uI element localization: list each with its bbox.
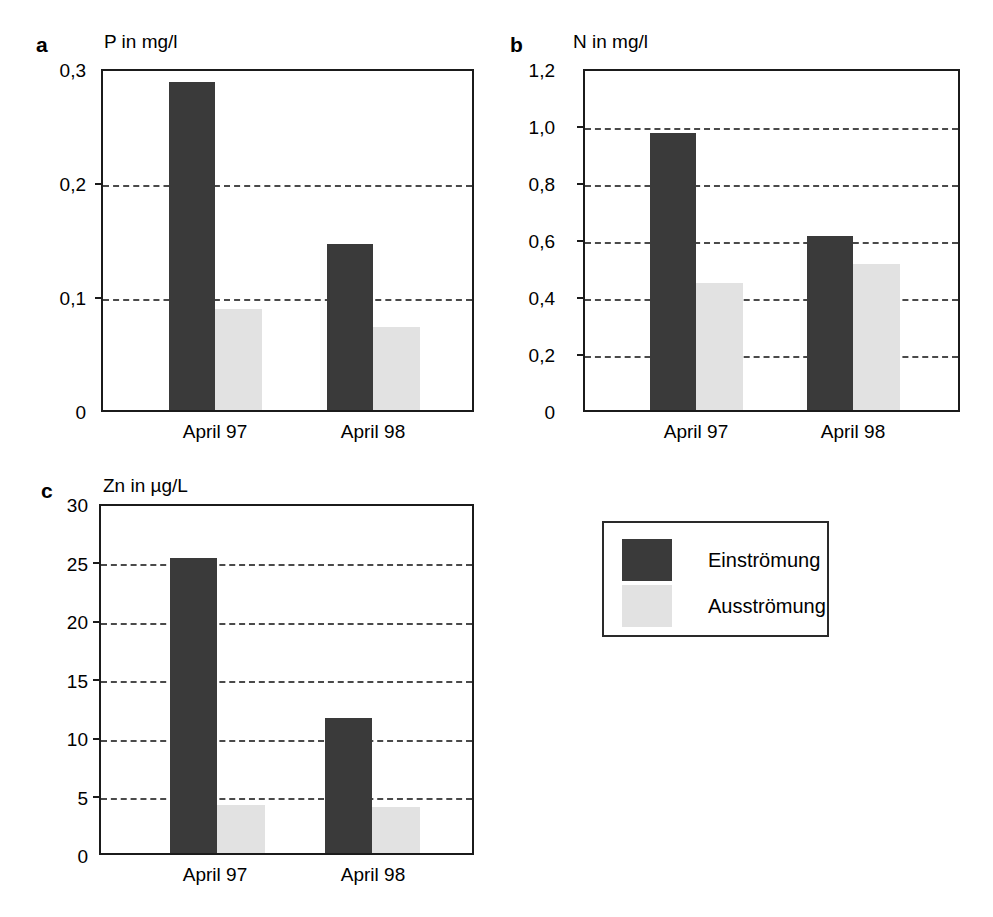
- panel-b-gridline-0.2: [585, 356, 958, 358]
- panel-a-bar-ausstroemung-april98: [373, 327, 420, 410]
- figure-multi-panel-bar-charts: a P in mg/l 0,3 0,2 0,1 0 April 97 April…: [0, 0, 993, 917]
- panel-b-gridline-0.8: [585, 185, 958, 187]
- panel-c-gridline-25: [101, 564, 472, 566]
- panel-b-title: N in mg/l: [573, 32, 648, 51]
- panel-b-plot-inner: [585, 71, 958, 410]
- panel-a-ytick-label-1: 0,2: [38, 175, 86, 194]
- legend-swatch-ausstroemung-icon: [622, 585, 672, 627]
- panel-b-gridline-1.0: [585, 128, 958, 130]
- panel-a-title: P in mg/l: [104, 32, 178, 51]
- panel-c-gridline-5: [101, 798, 472, 800]
- panel-c-ytick-label-2: 20: [38, 613, 88, 632]
- panel-b: b N in mg/l 1,2 1,0 0,8 0,6 0,4 0,2 0: [487, 0, 993, 460]
- panel-b-ytick-label-3: 0,6: [507, 232, 555, 251]
- panel-a-bar-einstroemung-april97: [169, 82, 215, 410]
- panel-c-title: Zn in µg/L: [103, 476, 188, 495]
- panel-b-bar-ausstroemung-april98: [853, 264, 900, 410]
- panel-c-bar-einstroemung-april98: [325, 718, 372, 853]
- panel-c-plot-inner: [101, 506, 472, 853]
- legend-label-einstroemung: Einströmung: [708, 550, 820, 570]
- panel-c-ytick-label-0: 30: [38, 496, 88, 515]
- panel-a-bar-ausstroemung-april97: [215, 309, 262, 410]
- legend-label-ausstroemung: Ausströmung: [708, 596, 826, 616]
- panel-b-bar-ausstroemung-april97: [696, 283, 743, 410]
- panel-b-ytick-label-1: 1,0: [507, 118, 555, 137]
- panel-a-letter: a: [36, 34, 48, 55]
- legend-item-ausstroemung: Ausströmung: [622, 585, 826, 627]
- panel-c-ytick-label-6: 0: [38, 847, 88, 866]
- panel-c-bar-einstroemung-april97: [170, 558, 217, 853]
- panel-b-bar-einstroemung-april97: [650, 133, 696, 410]
- panel-a-bar-einstroemung-april98: [327, 244, 373, 410]
- panel-c-ytick-label-4: 10: [38, 730, 88, 749]
- panel-c-plot-area: [99, 504, 474, 855]
- panel-c: c Zn in µg/L 30 25 20 15 10 5 0: [0, 460, 490, 917]
- panel-a-plot-area: [101, 69, 474, 412]
- panel-b-gridline-0.6: [585, 242, 958, 244]
- panel-a: a P in mg/l 0,3 0,2 0,1 0 April 97 April…: [0, 0, 490, 460]
- legend: Einströmung Ausströmung: [602, 521, 829, 637]
- panel-a-xtick-label-april97: April 97: [150, 422, 280, 441]
- panel-a-ytick-label-3: 0: [38, 403, 86, 422]
- panel-b-letter: b: [510, 34, 523, 55]
- panel-c-bar-ausstroemung-april97: [217, 805, 265, 853]
- panel-c-gridline-10: [101, 740, 472, 742]
- panel-c-xtick-label-april98: April 98: [308, 865, 438, 884]
- panel-c-ytick-label-1: 25: [38, 555, 88, 574]
- panel-b-plot-area: [583, 69, 960, 412]
- panel-c-bar-ausstroemung-april98: [372, 807, 420, 853]
- legend-item-einstroemung: Einströmung: [622, 539, 820, 581]
- panel-c-gridline-20: [101, 623, 472, 625]
- panel-b-ytick-label-5: 0,2: [507, 346, 555, 365]
- panel-b-ytick-label-4: 0,4: [507, 289, 555, 308]
- panel-a-gridline-0.1: [103, 299, 472, 301]
- panel-b-bar-einstroemung-april98: [807, 236, 853, 410]
- panel-c-ytick-label-3: 15: [38, 672, 88, 691]
- panel-a-xtick-label-april98: April 98: [308, 422, 438, 441]
- panel-a-ytick-label-2: 0,1: [38, 289, 86, 308]
- panel-c-ytick-label-5: 5: [38, 789, 88, 808]
- panel-c-xtick-label-april97: April 97: [150, 865, 280, 884]
- panel-b-gridline-0.4: [585, 299, 958, 301]
- panel-a-ytick-label-0: 0,3: [38, 61, 86, 80]
- panel-a-gridline-0.2: [103, 185, 472, 187]
- panel-b-ytick-label-6: 0: [507, 403, 555, 422]
- panel-b-xtick-label-april97: April 97: [631, 422, 761, 441]
- panel-a-plot-inner: [103, 71, 472, 410]
- legend-swatch-einstroemung-icon: [622, 539, 672, 581]
- panel-b-xtick-label-april98: April 98: [788, 422, 918, 441]
- panel-c-gridline-15: [101, 681, 472, 683]
- panel-b-ytick-label-0: 1,2: [507, 61, 555, 80]
- panel-b-ytick-label-2: 0,8: [507, 175, 555, 194]
